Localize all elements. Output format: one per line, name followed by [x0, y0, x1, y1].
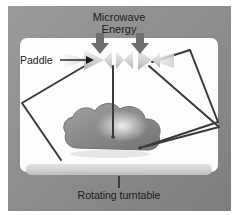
diagram-canvas: Microwave Energy Paddle Rotating turntab…: [0, 0, 238, 215]
paddle-label: Paddle: [20, 54, 53, 66]
microwave-energy-label-line1: Microwave: [93, 11, 146, 23]
food-shadow: [70, 150, 150, 158]
ray-center-endpoint: [111, 135, 115, 139]
turntable-shelf: [26, 164, 212, 175]
turntable-label: Rotating turntable: [78, 189, 161, 201]
microwave-energy-label-line2: Energy: [102, 23, 137, 35]
microwave-diagram-figure: Microwave Energy Paddle Rotating turntab…: [0, 0, 238, 215]
food-highlight: [96, 110, 148, 142]
ray-right-endpoint: [138, 146, 142, 150]
